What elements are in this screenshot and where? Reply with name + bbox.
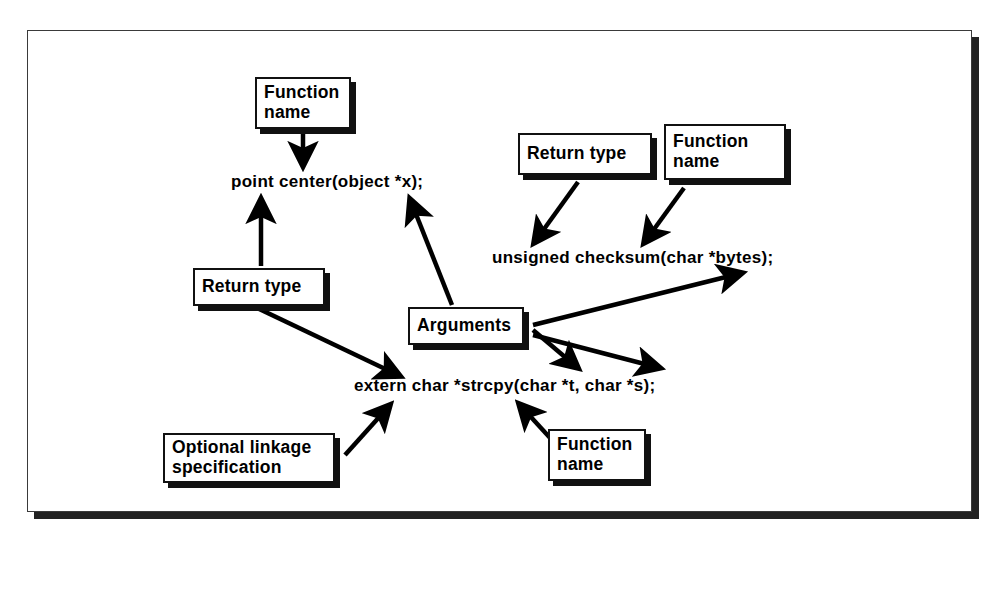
label-return-type-right-text: Return type xyxy=(527,144,626,164)
label-return-type-left-text: Return type xyxy=(202,277,301,297)
label-function-name-top: Function name xyxy=(255,77,351,129)
figure-frame-shadow-bottom xyxy=(34,512,979,519)
label-function-name-bottom-text: Function name xyxy=(557,435,632,474)
label-function-name-right-text: Function name xyxy=(673,132,748,171)
label-return-type-right: Return type xyxy=(518,133,652,175)
decl-extern-strcpy: extern char *strcpy(char *t, char *s); xyxy=(354,376,655,396)
function-declaration-diagram: Function name Return type Return type Fu… xyxy=(0,0,1003,589)
decl-point-center: point center(object *x); xyxy=(231,172,423,192)
decl-unsigned-checksum: unsigned checksum(char *bytes); xyxy=(492,248,773,268)
label-function-name-right: Function name xyxy=(664,124,786,180)
label-optional-linkage: Optional linkage specification xyxy=(163,433,335,483)
label-function-name-top-text: Function name xyxy=(264,83,339,122)
label-arguments-text: Arguments xyxy=(417,316,511,336)
figure-frame-shadow-right xyxy=(972,37,979,519)
label-optional-linkage-text: Optional linkage specification xyxy=(172,438,311,477)
label-arguments: Arguments xyxy=(408,307,524,345)
label-return-type-left: Return type xyxy=(193,268,325,306)
label-function-name-bottom: Function name xyxy=(548,429,646,481)
